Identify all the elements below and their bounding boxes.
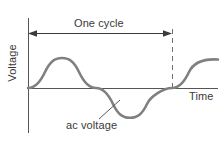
x-axis-label: Time — [189, 90, 213, 102]
ac-voltage-annotation-label: ac voltage — [66, 119, 117, 131]
y-axis-label: Voltage — [6, 35, 18, 91]
ac-voltage-waveform-figure: Voltage Time One cycle ac voltage — [0, 0, 224, 151]
ac-voltage-sine-curve — [28, 58, 218, 118]
one-cycle-arrowhead-right — [163, 30, 172, 37]
one-cycle-annotation-label: One cycle — [74, 17, 124, 29]
one-cycle-arrowhead-left — [28, 30, 37, 37]
